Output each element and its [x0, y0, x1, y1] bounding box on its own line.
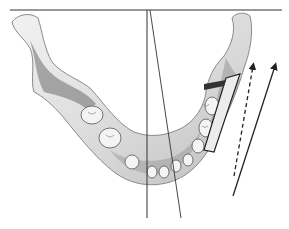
- mandible-diagram: [0, 0, 289, 229]
- oblique-reference-line: [150, 10, 181, 218]
- solid-arrow: [233, 66, 275, 196]
- incisor-4: [183, 154, 193, 166]
- incisor-2: [159, 166, 169, 178]
- molar-left-1: [81, 106, 103, 124]
- incisor-1: [147, 166, 157, 178]
- premolar-right: [192, 139, 204, 153]
- premolar-left: [125, 155, 139, 169]
- mandible: [12, 13, 252, 185]
- molar-left-2: [99, 128, 121, 148]
